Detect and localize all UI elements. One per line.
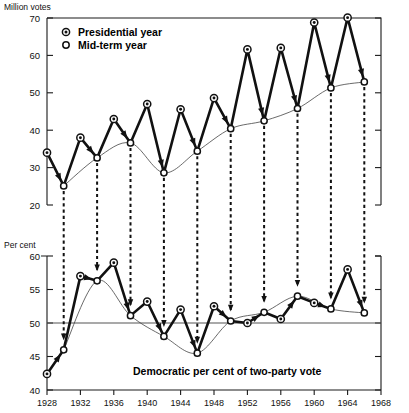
legend-entry-midterm: Mid-term year bbox=[63, 39, 147, 51]
presidential-year-marker-dot-icon bbox=[65, 31, 68, 34]
bottom-trend-path bbox=[64, 280, 365, 353]
bottom-presidential-year-marker-dot bbox=[112, 261, 115, 264]
bottom-presidential-year-marker-dot bbox=[313, 301, 316, 304]
top-segment-arrowhead bbox=[55, 173, 61, 181]
bottom-segment-arrowhead bbox=[190, 340, 196, 348]
mid-term-connector-arrowhead bbox=[261, 296, 266, 303]
top-y-tick-label: 40 bbox=[29, 125, 40, 136]
top-mid-term-year-marker bbox=[261, 118, 267, 124]
top-segment-arrowhead bbox=[291, 95, 297, 103]
legend-entry-presidential: Presidential year bbox=[62, 26, 162, 38]
top-presidential-year-marker-dot bbox=[112, 118, 115, 121]
legend-label-presidential: Presidential year bbox=[78, 26, 162, 38]
bottom-mid-term-year-marker bbox=[161, 333, 167, 339]
x-tick-label: 1952 bbox=[237, 398, 257, 408]
bottom-panel-caption-text: Democratic per cent of two-party vote bbox=[133, 365, 322, 377]
top-panel-axis-title: Million votes bbox=[4, 2, 51, 12]
x-tick-label: 1944 bbox=[171, 398, 191, 408]
top-y-tick-label: 30 bbox=[29, 162, 40, 173]
top-y-tick-label: 60 bbox=[29, 50, 40, 61]
top-y-tick-label: 50 bbox=[29, 87, 40, 98]
bottom-panel-y-tick-labels: 4045505560 bbox=[29, 251, 40, 396]
bottom-panel-data-markers bbox=[43, 259, 367, 377]
top-mid-term-year-marker bbox=[61, 183, 67, 189]
x-tick-label: 1940 bbox=[137, 398, 157, 408]
mid-term-connector-arrowhead bbox=[228, 305, 233, 312]
x-tick-label: 1968 bbox=[371, 398, 391, 408]
bottom-mid-term-year-marker bbox=[228, 318, 234, 324]
top-presidential-year-marker-dot bbox=[213, 97, 216, 100]
bottom-y-tick-label: 40 bbox=[29, 385, 40, 396]
x-axis-tick-labels: 1928193219361940194419481952195619601964… bbox=[37, 398, 391, 408]
bottom-segment-arrowhead bbox=[317, 302, 325, 308]
top-mid-term-year-marker bbox=[127, 140, 133, 146]
top-mid-term-year-marker bbox=[94, 155, 100, 161]
mid-term-connector-arrowhead bbox=[295, 280, 300, 287]
bottom-mid-term-year-marker bbox=[294, 293, 300, 299]
bottom-y-tick-label: 55 bbox=[29, 284, 40, 295]
mid-term-connector-arrowhead bbox=[328, 293, 333, 300]
x-tick-label: 1948 bbox=[204, 398, 224, 408]
top-segment-arrowhead bbox=[222, 116, 228, 124]
top-presidential-year-marker-dot bbox=[79, 136, 82, 139]
top-panel-axis-title-text: Million votes bbox=[4, 2, 51, 12]
bottom-mid-term-year-marker bbox=[261, 309, 267, 315]
top-segment-arrowhead bbox=[358, 68, 364, 76]
bottom-segment-arrowhead bbox=[357, 299, 363, 307]
mid-term-connector-arrowhead bbox=[94, 264, 99, 271]
bottom-presidential-year-marker-dot bbox=[246, 322, 249, 325]
x-tick-label: 1932 bbox=[70, 398, 90, 408]
bottom-y-tick-label: 45 bbox=[29, 351, 40, 362]
bottom-presidential-year-marker-dot bbox=[79, 275, 82, 278]
top-presidential-year-marker-dot bbox=[279, 46, 282, 49]
bottom-mid-term-year-marker bbox=[94, 278, 100, 284]
bottom-panel-trend-curve bbox=[64, 280, 365, 353]
top-presidential-year-marker-dot bbox=[346, 16, 349, 19]
bottom-presidential-year-marker-dot bbox=[179, 308, 182, 311]
top-y-tick-label: 20 bbox=[29, 200, 40, 211]
top-mid-term-year-marker bbox=[161, 170, 167, 176]
top-mid-term-year-marker bbox=[328, 85, 334, 91]
bottom-presidential-year-marker-dot bbox=[213, 305, 216, 308]
bottom-presidential-year-marker-dot bbox=[346, 268, 349, 271]
legend-label-midterm: Mid-term year bbox=[78, 39, 147, 51]
bottom-mid-term-year-marker bbox=[328, 306, 334, 312]
bottom-mid-term-year-marker bbox=[127, 313, 133, 319]
top-presidential-year-marker-dot bbox=[146, 103, 149, 106]
bottom-panel-axis-title: Per cent bbox=[4, 240, 36, 250]
x-tick-label: 1936 bbox=[104, 398, 124, 408]
figure-container: Million votes 203040506070 Per cent 4045… bbox=[0, 0, 409, 413]
chart-legend: Presidential year Mid-term year bbox=[62, 26, 162, 51]
bottom-y-tick-label: 50 bbox=[29, 318, 40, 329]
top-presidential-year-marker-dot bbox=[46, 151, 49, 154]
x-tick-label: 1964 bbox=[338, 398, 358, 408]
top-mid-term-year-marker bbox=[228, 126, 234, 132]
top-presidential-year-marker-dot bbox=[179, 108, 182, 111]
x-tick-label: 1928 bbox=[37, 398, 57, 408]
bottom-panel-arrowheads bbox=[54, 274, 363, 362]
top-panel-y-tick-labels: 203040506070 bbox=[29, 13, 40, 211]
top-panel-arrowheads bbox=[55, 68, 364, 181]
bottom-mid-term-year-marker bbox=[194, 350, 200, 356]
bottom-segment-arrowhead bbox=[84, 274, 92, 280]
top-mid-term-year-marker bbox=[194, 148, 200, 154]
bottom-presidential-year-marker-dot bbox=[279, 318, 282, 321]
bottom-presidential-year-marker-dot bbox=[46, 372, 49, 375]
top-presidential-year-marker-dot bbox=[246, 48, 249, 51]
two-panel-election-chart: Million votes 203040506070 Per cent 4045… bbox=[0, 0, 409, 413]
top-presidential-year-marker-dot bbox=[313, 21, 316, 24]
x-axis-ticks bbox=[47, 390, 381, 395]
top-mid-term-year-marker bbox=[294, 105, 300, 111]
bottom-mid-term-year-marker bbox=[61, 347, 67, 353]
bottom-panel-axis-title-text: Per cent bbox=[4, 240, 36, 250]
bottom-presidential-year-marker-dot bbox=[146, 300, 149, 303]
mid-term-year-marker-icon bbox=[63, 42, 69, 48]
x-tick-label: 1960 bbox=[304, 398, 324, 408]
bottom-panel-caption: Democratic per cent of two-party vote bbox=[133, 365, 322, 377]
bottom-y-tick-label: 60 bbox=[29, 251, 40, 262]
bottom-segment-arrowhead bbox=[155, 323, 161, 331]
x-tick-label: 1956 bbox=[271, 398, 291, 408]
top-mid-term-year-marker bbox=[361, 79, 367, 85]
bottom-mid-term-year-marker bbox=[361, 310, 367, 316]
top-y-tick-label: 70 bbox=[29, 13, 40, 24]
